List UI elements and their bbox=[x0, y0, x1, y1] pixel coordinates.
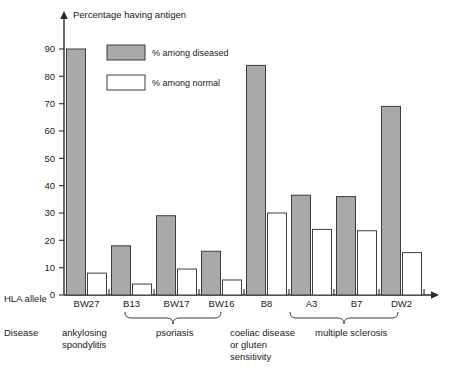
bar-normal-bw27 bbox=[88, 273, 107, 295]
legend-swatch-diseased bbox=[107, 45, 145, 60]
bar-normal-b8 bbox=[268, 213, 287, 295]
category-label-a3: A3 bbox=[306, 298, 318, 309]
y-axis-ticks: 0 10 20 30 40 50 60 70 80 90 bbox=[44, 43, 64, 300]
group-label-line: sensitivity bbox=[230, 351, 271, 362]
group-label-line: coeliac disease bbox=[230, 327, 295, 338]
group-label-line: spondylitis bbox=[62, 339, 107, 350]
bar-diseased-b13 bbox=[112, 246, 131, 295]
category-label-dw2: DW2 bbox=[391, 298, 412, 309]
legend-swatch-normal bbox=[107, 75, 145, 90]
chart-container: Percentage having antigen 0 10 20 30 40 … bbox=[0, 0, 449, 368]
group-label-multiple-sclerosis: multiple sclerosis bbox=[315, 327, 388, 338]
bar-normal-bw16 bbox=[223, 280, 242, 295]
group-label-line: or gluten bbox=[230, 339, 267, 350]
legend-label-normal: % among normal bbox=[152, 78, 220, 88]
y-tick-label: 80 bbox=[44, 71, 55, 82]
group-label-line: ankylosing bbox=[62, 327, 107, 338]
y-tick-label: 50 bbox=[44, 153, 55, 164]
y-tick-label: 10 bbox=[44, 262, 55, 273]
bar-diseased-b8 bbox=[247, 65, 266, 295]
category-label-bw17: BW17 bbox=[164, 298, 190, 309]
legend-label-diseased: % among diseased bbox=[152, 48, 229, 58]
category-label-b8: B8 bbox=[261, 298, 273, 309]
x-axis-arrowhead bbox=[431, 291, 439, 299]
y-tick-label: 60 bbox=[44, 125, 55, 136]
group-label-ankylosing-spondylitis: ankylosing spondylitis bbox=[62, 327, 107, 350]
category-label-bw27: BW27 bbox=[74, 298, 100, 309]
category-label-b13: B13 bbox=[123, 298, 140, 309]
bar-normal-b7 bbox=[358, 231, 377, 295]
category-label-b7: B7 bbox=[351, 298, 363, 309]
y-tick-label: 30 bbox=[44, 207, 55, 218]
bar-diseased-bw27 bbox=[67, 49, 86, 295]
bar-diseased-bw16 bbox=[202, 251, 221, 295]
bar-diseased-dw2 bbox=[382, 106, 401, 295]
y-tick-label: 70 bbox=[44, 98, 55, 109]
row-label-hla-allele: HLA allele bbox=[4, 293, 47, 304]
y-tick-label: 20 bbox=[44, 235, 55, 246]
y-tick-label: 40 bbox=[44, 180, 55, 191]
y-tick-label: 90 bbox=[44, 43, 55, 54]
group-brace-psoriasis bbox=[125, 312, 221, 324]
bar-normal-a3 bbox=[313, 229, 332, 295]
bar-normal-dw2 bbox=[403, 253, 422, 295]
bar-normal-b13 bbox=[133, 284, 152, 295]
category-labels: BW27B13BW17BW16B8A3B7DW2 bbox=[74, 298, 413, 309]
group-brace-multiple-sclerosis bbox=[290, 312, 398, 324]
bar-normal-bw17 bbox=[178, 269, 197, 295]
legend: % among diseased % among normal bbox=[107, 45, 229, 90]
chart-axis-title: Percentage having antigen bbox=[73, 9, 186, 20]
group-label-line: psoriasis bbox=[156, 327, 194, 338]
group-label-psoriasis: psoriasis bbox=[156, 327, 194, 338]
group-label-line: multiple sclerosis bbox=[315, 327, 388, 338]
bar-chart-svg: Percentage having antigen 0 10 20 30 40 … bbox=[0, 0, 449, 368]
category-label-bw16: BW16 bbox=[209, 298, 235, 309]
bar-diseased-b7 bbox=[337, 197, 356, 295]
y-axis-arrowhead bbox=[60, 11, 68, 19]
bar-diseased-a3 bbox=[292, 195, 311, 295]
y-tick-label: 0 bbox=[50, 289, 55, 300]
row-label-disease: Disease bbox=[4, 327, 38, 338]
group-label-coeliac-disease: coeliac disease or gluten sensitivity bbox=[230, 327, 295, 362]
bar-diseased-bw17 bbox=[157, 216, 176, 295]
